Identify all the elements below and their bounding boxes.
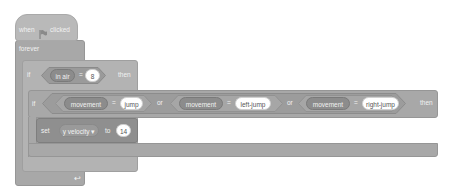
left-jump-value-input[interactable]: left-jump	[235, 97, 271, 110]
inner-if-bottom-arm[interactable]	[28, 143, 438, 157]
or-label-2: or	[287, 100, 293, 107]
inner-if-label: if	[32, 101, 35, 108]
jump-value-input[interactable]: jump	[120, 97, 143, 110]
or-label-1: or	[157, 100, 163, 107]
movement-variable-1[interactable]: movement	[64, 97, 108, 110]
outer-if-label: if	[27, 72, 30, 79]
variable-dropdown[interactable]: y velocity ▾	[59, 124, 99, 137]
right-jump-value-input[interactable]: right-jump	[362, 97, 399, 110]
velocity-value-input[interactable]: 14	[116, 124, 131, 137]
dropdown-arrow-icon: ▾	[91, 128, 95, 135]
variable-dropdown-label: y velocity	[63, 128, 90, 135]
green-flag-icon	[39, 25, 47, 34]
set-label: set	[41, 128, 50, 135]
movement-variable-3[interactable]: movement	[306, 97, 350, 110]
movement-variable-2[interactable]: movement	[179, 97, 223, 110]
to-label: to	[105, 128, 110, 135]
outer-then-label: then	[118, 72, 131, 79]
equals-operator-3: =	[354, 100, 358, 107]
inner-then-label: then	[420, 100, 433, 107]
when-label: when	[19, 27, 35, 34]
in-air-value-input[interactable]: 8	[85, 69, 100, 82]
equals-operator-2: =	[227, 100, 231, 107]
loop-arrow-icon: ↩	[74, 175, 81, 183]
in-air-variable[interactable]: in air	[50, 69, 75, 82]
equals-operator: =	[79, 72, 83, 79]
clicked-label: clicked	[50, 27, 70, 34]
equals-operator-1: =	[112, 100, 116, 107]
forever-label: forever	[19, 46, 39, 53]
